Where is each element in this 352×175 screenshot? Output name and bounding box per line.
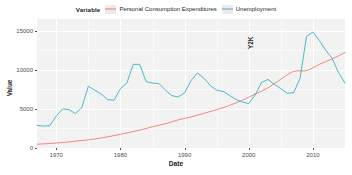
y-axis-tick-label: 5000 bbox=[20, 106, 33, 112]
x-axis-tick-label: 1990 bbox=[178, 152, 191, 158]
legend-swatch-unemployment-icon bbox=[222, 5, 233, 14]
y-axis-tick-label: 10000 bbox=[16, 67, 33, 73]
legend-label-pce: Personal Consumption Expenditures bbox=[119, 6, 216, 12]
x-axis-title: Date bbox=[0, 160, 352, 167]
legend-title: Variable bbox=[76, 6, 101, 13]
x-axis-tick-label: 1980 bbox=[114, 152, 127, 158]
legend-swatch-pce-icon bbox=[105, 5, 116, 14]
line-personal-consumption-expenditures bbox=[37, 53, 345, 145]
x-axis-tick-label: 1970 bbox=[50, 152, 63, 158]
series-lines bbox=[37, 19, 345, 148]
x-axis-tick-mark bbox=[313, 148, 314, 150]
chart-legend: Variable Personal Consumption Expenditur… bbox=[0, 0, 352, 18]
x-axis-tick-mark bbox=[56, 148, 57, 150]
x-axis-tick-label: 2010 bbox=[306, 152, 319, 158]
legend-item-pce[interactable]: Personal Consumption Expenditures bbox=[105, 5, 216, 14]
y-axis-tick-label: 0 bbox=[30, 145, 33, 151]
line-unemployment bbox=[37, 32, 345, 126]
x-axis-tick-mark bbox=[185, 148, 186, 150]
x-axis-tick-mark bbox=[249, 148, 250, 150]
plot-panel: Y2K bbox=[37, 19, 345, 148]
x-axis-tick-label: 2000 bbox=[242, 152, 255, 158]
x-axis-tick-mark bbox=[120, 148, 121, 150]
gridline-horizontal bbox=[37, 148, 345, 149]
chart-container: Variable Personal Consumption Expenditur… bbox=[0, 0, 352, 175]
y2k-annotation-label: Y2K bbox=[247, 37, 254, 49]
y-axis-tick-label: 15000 bbox=[16, 28, 33, 34]
legend-item-unemployment[interactable]: Unemployment bbox=[222, 5, 276, 14]
y-axis-ticks: 050001000015000 bbox=[0, 0, 37, 175]
legend-label-unemployment: Unemployment bbox=[236, 6, 276, 12]
